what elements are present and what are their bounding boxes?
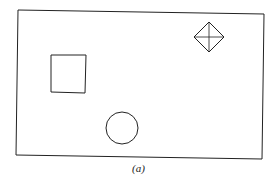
figure-canvas	[0, 0, 277, 188]
diamond-shape	[194, 22, 224, 52]
square-shape	[51, 55, 86, 93]
frame-rectangle	[16, 10, 264, 159]
circle-shape	[106, 112, 138, 144]
figure-caption: (a)	[0, 162, 277, 174]
